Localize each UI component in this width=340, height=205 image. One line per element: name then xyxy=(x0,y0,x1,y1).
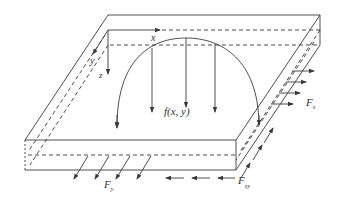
fxy-side-arrows xyxy=(241,128,273,178)
fxy-label: Fxy xyxy=(237,174,250,189)
z-axis-label: z xyxy=(98,70,103,80)
plate-diagram: x y z f(x, y) Fx Fy Fxy xyxy=(0,0,340,205)
x-axis-label: x xyxy=(150,32,156,43)
fy-label: Fy xyxy=(103,178,114,192)
hidden-lines xyxy=(28,30,320,165)
load-label: f(x, y) xyxy=(164,105,190,118)
fy-arrows xyxy=(74,156,151,179)
fx-label: Fx xyxy=(305,96,316,110)
plate-outline xyxy=(25,15,320,170)
y-axis-label: y xyxy=(89,55,95,66)
